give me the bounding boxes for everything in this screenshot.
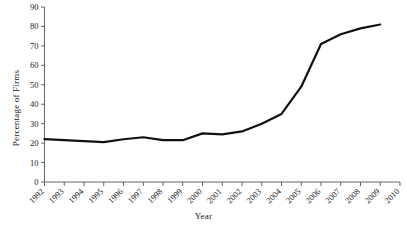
y-tick-label: 60 <box>30 60 39 70</box>
y-tick-label: 90 <box>30 2 39 12</box>
y-tick-label: 10 <box>30 158 39 168</box>
x-tick-label: 1992 <box>27 186 46 205</box>
y-tick-label: 40 <box>30 99 39 109</box>
y-tick-label: 70 <box>30 41 39 51</box>
y-tick-label: 80 <box>30 21 39 31</box>
line-chart: Percentage of Firms Year 010203040506070… <box>0 0 407 232</box>
x-tick-label: 1999 <box>165 186 184 205</box>
y-tick-label: 30 <box>30 119 39 129</box>
x-tick-label: 2001 <box>205 186 224 205</box>
x-tick-label: 2002 <box>224 186 243 205</box>
y-tick-label: 20 <box>30 138 39 148</box>
x-tick-label: 2007 <box>323 186 342 205</box>
x-tick-label: 1995 <box>86 186 105 205</box>
x-tick-label: 2010 <box>382 186 401 205</box>
y-tick-label: 0 <box>34 177 38 187</box>
x-tick-label: 1998 <box>145 186 164 205</box>
x-tick-label: 2000 <box>185 186 204 205</box>
y-axis: 0102030405060708090 <box>30 2 45 187</box>
data-series <box>45 25 381 143</box>
x-tick-label: 1993 <box>47 186 66 205</box>
x-tick-label: 2003 <box>244 186 263 205</box>
x-tick-label: 1994 <box>66 186 86 206</box>
x-axis: 1992199319941995199619971998199920002001… <box>27 182 402 205</box>
x-tick-label: 2004 <box>264 186 284 206</box>
x-tick-label: 2006 <box>303 186 322 205</box>
series-line-percentage-of-firms <box>45 25 381 143</box>
x-tick-label: 2009 <box>363 186 382 205</box>
x-tick-label: 2005 <box>284 186 303 205</box>
x-tick-label: 2008 <box>343 186 362 205</box>
x-tick-label: 1996 <box>106 186 125 205</box>
y-tick-label: 50 <box>30 80 39 90</box>
plot-area: 0102030405060708090 19921993199419951996… <box>0 0 407 232</box>
x-tick-label: 1997 <box>126 186 145 205</box>
